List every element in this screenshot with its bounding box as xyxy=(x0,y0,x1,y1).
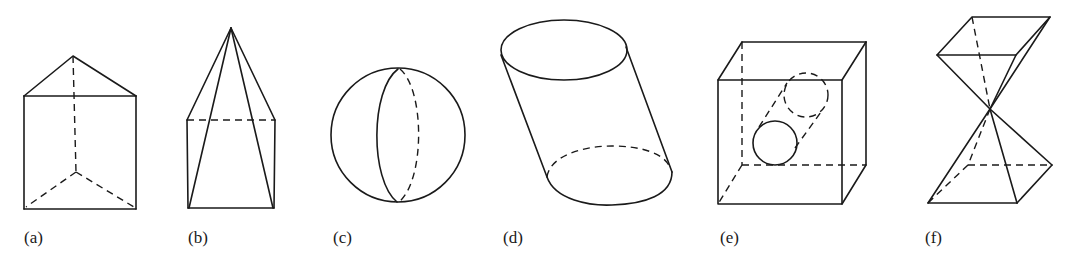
double-pyramid-drawing xyxy=(928,17,1052,203)
sphere-drawing xyxy=(331,68,465,202)
cube-with-hole-drawing xyxy=(718,42,866,204)
triangular-prism-drawing xyxy=(24,56,136,209)
geometric-solids-figure xyxy=(0,0,1070,255)
panel-label-b: (b) xyxy=(188,228,208,248)
panel-label-f: (f) xyxy=(925,228,942,248)
pyramid-prism-drawing xyxy=(187,28,275,208)
panel-label-c: (c) xyxy=(333,228,352,248)
oblique-cylinder-drawing xyxy=(501,20,672,205)
panel-label-e: (e) xyxy=(720,228,739,248)
panel-label-a: (a) xyxy=(24,228,43,248)
panel-label-d: (d) xyxy=(503,228,523,248)
